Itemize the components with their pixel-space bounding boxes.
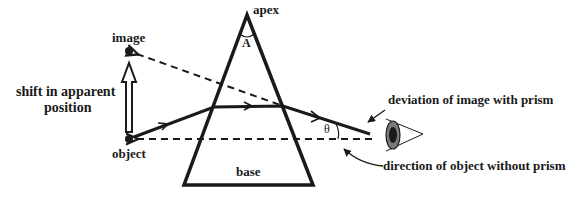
eye-icon [386,119,423,151]
deviation-label: deviation of image with prism [388,93,553,106]
image-label: image [112,31,145,44]
theta-label: θ [324,123,330,135]
direction-leader-arrow [344,149,383,166]
light-ray [134,106,370,137]
object-point [125,135,133,143]
shift-label: shift in apparent [16,85,115,99]
apex-label: apex [253,3,279,16]
direction-label: direction of object without prism [383,159,565,172]
shift-arrow [122,63,136,132]
image-point [125,47,133,55]
theta-arc [336,124,339,139]
virtual-ray-line [137,54,283,106]
base-label: base [236,165,261,178]
shift-label-2: position [44,101,91,115]
apex-angle-label: A [242,37,251,49]
deviation-leader-arrow [368,110,385,122]
object-label: object [112,147,146,160]
